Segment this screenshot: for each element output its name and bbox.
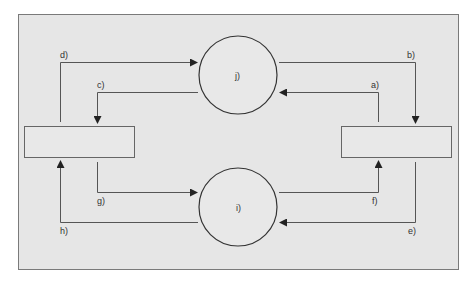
arrow-a-label: a) xyxy=(371,80,379,90)
circle-top-label: j) xyxy=(234,71,240,81)
box-left xyxy=(25,127,135,158)
circle-bottom-node: i) xyxy=(199,168,277,246)
arrow-h-label: h) xyxy=(60,226,68,236)
box-right xyxy=(342,127,452,158)
arrow-e-label: e) xyxy=(408,226,416,236)
arrow-b-label: b) xyxy=(407,50,415,60)
flow-diagram: j) i) d) c) b) a) g) h) f) e) xyxy=(0,0,474,281)
arrow-d-label: d) xyxy=(60,50,68,60)
circle-top-node: j) xyxy=(199,36,277,114)
circle-bottom-label: i) xyxy=(236,203,241,213)
arrow-c-label: c) xyxy=(97,80,105,90)
arrow-f-label: f) xyxy=(372,196,378,206)
arrow-g-label: g) xyxy=(97,196,105,206)
